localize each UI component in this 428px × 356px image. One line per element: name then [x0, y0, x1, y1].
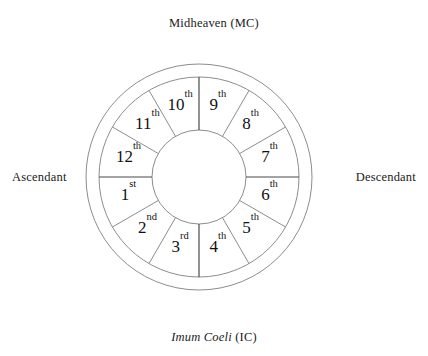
- midheaven-term: Midheaven: [169, 16, 227, 30]
- house-label-7: 7th: [261, 140, 278, 166]
- house-label-10: 10th: [168, 88, 194, 114]
- house-ordinal-4: th: [218, 229, 227, 240]
- inner-circle: [152, 130, 246, 224]
- house-number-10: 10: [168, 95, 185, 114]
- house-ordinal-9: th: [218, 88, 227, 99]
- house-ordinal-7: th: [270, 140, 279, 151]
- house-ordinal-6: th: [270, 178, 279, 189]
- house-ordinal-1: st: [129, 178, 136, 189]
- house-label-9: 9th: [210, 88, 227, 114]
- house-number-5: 5: [242, 218, 251, 237]
- house-label-4: 4th: [210, 229, 227, 255]
- house-number-11: 11: [135, 114, 151, 133]
- imum-coeli-label: Imum Coeli (IC): [0, 330, 428, 345]
- house-number-6: 6: [261, 185, 270, 204]
- house-number-12: 12: [116, 147, 133, 166]
- house-label-11: 11th: [135, 107, 160, 133]
- midheaven-abbr: (MC): [230, 16, 259, 30]
- house-label-2: 2nd: [138, 211, 158, 237]
- house-number-2: 2: [138, 218, 147, 237]
- house-ordinal-12: th: [133, 140, 142, 151]
- house-ordinal-5: th: [251, 211, 260, 222]
- house-ordinal-11: th: [151, 107, 160, 118]
- midheaven-label: Midheaven (MC): [0, 16, 428, 31]
- house-ordinal-8: th: [251, 107, 260, 118]
- house-label-6: 6th: [261, 178, 278, 204]
- imum-coeli-abbr: (IC): [235, 330, 257, 344]
- house-wheel-figure: 1st2nd3rd4th5th6th7th8th9th10th11th12th …: [0, 0, 428, 356]
- house-label-1: 1st: [121, 178, 137, 204]
- house-number-9: 9: [210, 95, 219, 114]
- house-number-1: 1: [121, 185, 130, 204]
- house-ordinal-2: nd: [146, 211, 157, 222]
- house-ordinal-10: th: [185, 88, 194, 99]
- house-label-8: 8th: [242, 107, 259, 133]
- descendant-label: Descendant: [356, 170, 416, 185]
- house-number-3: 3: [171, 236, 180, 255]
- imum-coeli-term: Imum Coeli: [171, 330, 232, 344]
- house-label-5: 5th: [242, 211, 259, 237]
- house-label-12: 12th: [116, 140, 142, 166]
- ascendant-label: Ascendant: [12, 170, 67, 185]
- house-ordinal-3: rd: [180, 229, 189, 240]
- house-number-8: 8: [242, 114, 251, 133]
- house-label-3: 3rd: [171, 229, 189, 255]
